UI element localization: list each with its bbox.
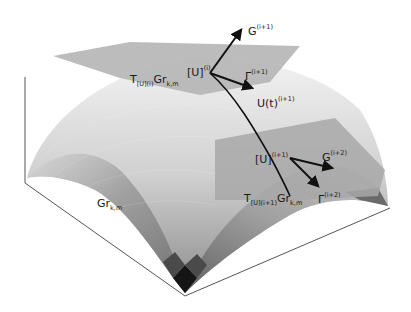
label-sub: k,m: [110, 204, 122, 212]
label-sup: (i+1): [257, 23, 273, 31]
label-base: Gr: [97, 197, 110, 210]
label-prefix: T: [130, 73, 137, 86]
label-base: Gr: [153, 73, 166, 86]
label-sup: (i+2): [324, 191, 340, 199]
label-sub-point: [U]: [251, 199, 261, 207]
grassmann-diagram: G(i+1) T[U](i)Grk,m [U](i) Γ(i+1) U(t)(i…: [0, 0, 411, 312]
label-sup: (i+1): [278, 95, 294, 103]
label-base: G: [248, 25, 257, 38]
label-base: [U]: [187, 66, 204, 79]
label-base: G: [322, 151, 331, 164]
label-sup: (i+2): [331, 149, 347, 157]
label-base: [U]: [255, 153, 272, 166]
label-sub: k,m: [290, 199, 302, 207]
label-sup: (i+1): [251, 68, 267, 76]
label-point-U-i+1: [U](i+1): [255, 153, 288, 165]
label-base: Gr: [277, 192, 290, 205]
label-tangent-plane-2: T[U](i+1)Grk,m: [244, 193, 302, 207]
diagram-canvas: [0, 0, 411, 312]
label-tangent-plane-1: T[U](i)Grk,m: [130, 74, 179, 88]
label-sup: (i): [204, 64, 211, 72]
label-sub: k,m: [167, 80, 179, 88]
label-Gamma-i+1: Γ(i+1): [245, 70, 268, 82]
label-sub-point: [U]: [137, 80, 147, 88]
label-point-U-i: [U](i): [187, 66, 211, 78]
label-manifold: Grk,m: [97, 198, 122, 212]
label-base: U(t): [257, 97, 278, 110]
label-sup: (i+1): [272, 151, 288, 159]
label-G-i+2: G(i+2): [322, 151, 347, 163]
label-sup-point: (i+1): [261, 199, 277, 207]
label-Gamma-i+2: Γ(i+2): [318, 193, 341, 205]
label-G-i+1: G(i+1): [248, 25, 273, 37]
label-prefix: T: [244, 192, 251, 205]
label-geodesic: U(t)(i+1): [257, 97, 294, 109]
